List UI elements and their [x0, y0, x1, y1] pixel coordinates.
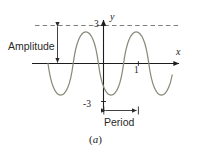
y-tick-label-negative-3: -3	[83, 100, 91, 110]
figure-caption: (a)	[89, 134, 102, 145]
y-axis-label: y	[110, 12, 114, 22]
period-label: Period	[104, 117, 134, 128]
x-tick-label-1: 1	[134, 66, 139, 76]
x-axis-label: x	[176, 47, 180, 57]
sine-wave-figure: Amplitude Period y x 3 -3 1 (a)	[0, 0, 199, 152]
figure-canvas	[0, 0, 199, 152]
y-tick-label-3: 3	[94, 20, 99, 30]
caption-paren-close: )	[98, 133, 102, 145]
amplitude-label: Amplitude	[8, 41, 55, 52]
